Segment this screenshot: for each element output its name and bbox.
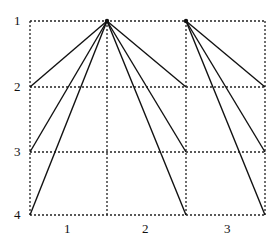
fan-lines	[30, 21, 265, 215]
fan-line-7	[186, 21, 265, 87]
apex-point-2	[184, 19, 188, 23]
row-label-2: 2	[14, 80, 21, 93]
apex-point-1	[105, 19, 109, 23]
row-label-1: 1	[14, 14, 21, 27]
fan-line-6	[107, 21, 186, 215]
col-label-2: 2	[142, 222, 149, 235]
fan-line-3	[30, 21, 107, 215]
row-label-4: 4	[14, 208, 21, 221]
fan-line-8	[186, 21, 265, 152]
fan-line-4	[107, 21, 186, 87]
fan-line-9	[186, 21, 265, 215]
row-label-3: 3	[14, 145, 21, 158]
col-label-1: 1	[64, 222, 71, 235]
fan-line-1	[30, 21, 107, 87]
grid-diagram	[0, 0, 278, 243]
col-label-3: 3	[224, 222, 231, 235]
dotted-grid	[30, 21, 265, 215]
